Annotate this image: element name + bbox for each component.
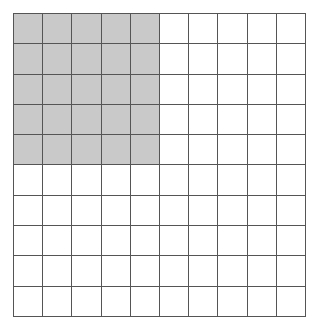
grid-cell bbox=[42, 195, 71, 225]
grid-cell bbox=[188, 74, 217, 104]
grid-cell bbox=[188, 225, 217, 255]
grid-cell bbox=[159, 43, 188, 73]
grid-cell bbox=[188, 134, 217, 164]
grid-cell-shaded bbox=[71, 104, 100, 134]
grid-cell bbox=[247, 13, 276, 43]
grid-cell-shaded bbox=[71, 74, 100, 104]
grid-cell bbox=[71, 195, 100, 225]
grid-cell bbox=[217, 164, 246, 194]
grid-cell bbox=[247, 195, 276, 225]
grid-cell bbox=[188, 164, 217, 194]
grid-cell bbox=[159, 164, 188, 194]
grid-cell bbox=[188, 286, 217, 316]
grid-cell-shaded bbox=[42, 43, 71, 73]
grid-cell bbox=[130, 255, 159, 285]
grid-cell bbox=[276, 43, 305, 73]
grid-cell bbox=[217, 74, 246, 104]
grid-cell-shaded bbox=[42, 134, 71, 164]
grid-cell-shaded bbox=[71, 134, 100, 164]
grid-cell-shaded bbox=[130, 43, 159, 73]
grid-cell-shaded bbox=[13, 104, 42, 134]
grid-cell bbox=[217, 104, 246, 134]
grid-cell bbox=[13, 195, 42, 225]
grid-cell bbox=[276, 134, 305, 164]
grid-cell bbox=[130, 195, 159, 225]
grid-cell bbox=[247, 286, 276, 316]
grid-cell bbox=[276, 164, 305, 194]
grid-cell bbox=[247, 134, 276, 164]
grid-cell-shaded bbox=[101, 134, 130, 164]
grid-cell bbox=[276, 74, 305, 104]
grid-cell-shaded bbox=[13, 43, 42, 73]
grid-cell bbox=[71, 255, 100, 285]
grid-cell bbox=[188, 104, 217, 134]
grid-cell bbox=[130, 164, 159, 194]
grid-cell bbox=[71, 286, 100, 316]
grid-cell bbox=[159, 13, 188, 43]
grid-cell bbox=[217, 13, 246, 43]
grid-cell bbox=[13, 255, 42, 285]
grid-cell bbox=[159, 195, 188, 225]
grid-cell bbox=[71, 225, 100, 255]
grid-cell bbox=[217, 286, 246, 316]
grid-cell-shaded bbox=[42, 13, 71, 43]
grid-cell-shaded bbox=[130, 134, 159, 164]
grid-cell-shaded bbox=[71, 43, 100, 73]
grid-cell bbox=[159, 134, 188, 164]
grid-cell bbox=[276, 255, 305, 285]
grid-cell bbox=[276, 225, 305, 255]
grid-cell-shaded bbox=[42, 74, 71, 104]
grid-cell bbox=[159, 255, 188, 285]
grid-cell bbox=[42, 286, 71, 316]
hundred-grid bbox=[13, 13, 306, 317]
grid-cell bbox=[276, 104, 305, 134]
grid-cell bbox=[130, 225, 159, 255]
grid-cell bbox=[71, 164, 100, 194]
grid-cell-shaded bbox=[130, 74, 159, 104]
grid-cell bbox=[101, 255, 130, 285]
grid-cell-shaded bbox=[101, 74, 130, 104]
grid-cell bbox=[130, 286, 159, 316]
grid-cell bbox=[42, 164, 71, 194]
grid-cell-shaded bbox=[42, 104, 71, 134]
grid-cell-shaded bbox=[101, 104, 130, 134]
grid-cell-shaded bbox=[130, 104, 159, 134]
grid-cell bbox=[159, 104, 188, 134]
grid-cell bbox=[188, 13, 217, 43]
grid-cell-shaded bbox=[13, 74, 42, 104]
grid-cell bbox=[217, 195, 246, 225]
grid-cell-shaded bbox=[130, 13, 159, 43]
grid-cell bbox=[217, 255, 246, 285]
grid-cell bbox=[101, 225, 130, 255]
grid-cell bbox=[13, 225, 42, 255]
grid-cell bbox=[188, 255, 217, 285]
grid-cell bbox=[13, 164, 42, 194]
grid-cell bbox=[188, 195, 217, 225]
grid-cell bbox=[276, 195, 305, 225]
grid-cell bbox=[159, 286, 188, 316]
grid-cell bbox=[247, 43, 276, 73]
grid-cell bbox=[247, 74, 276, 104]
grid-cell bbox=[217, 134, 246, 164]
grid-cell-shaded bbox=[71, 13, 100, 43]
grid-cell bbox=[13, 286, 42, 316]
grid-cell-shaded bbox=[101, 13, 130, 43]
grid-cell bbox=[159, 74, 188, 104]
grid-cell-shaded bbox=[13, 13, 42, 43]
grid-cell bbox=[247, 255, 276, 285]
grid-cell bbox=[101, 286, 130, 316]
grid-cell bbox=[276, 286, 305, 316]
grid-cell-shaded bbox=[101, 43, 130, 73]
grid-cell bbox=[217, 43, 246, 73]
grid-cell bbox=[42, 255, 71, 285]
grid-cell bbox=[276, 13, 305, 43]
grid-cell bbox=[247, 104, 276, 134]
grid-cell bbox=[247, 225, 276, 255]
grid-cell bbox=[42, 225, 71, 255]
grid-cell bbox=[247, 164, 276, 194]
grid-cell bbox=[159, 225, 188, 255]
grid-cell bbox=[188, 43, 217, 73]
grid-cell bbox=[217, 225, 246, 255]
grid-cell-shaded bbox=[13, 134, 42, 164]
grid-cell bbox=[101, 164, 130, 194]
